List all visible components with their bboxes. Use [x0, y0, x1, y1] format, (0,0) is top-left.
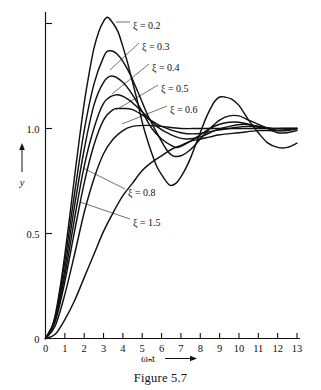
response-curve [46, 129, 298, 339]
leader-line [80, 202, 130, 219]
curve-label: ξ = 0.3 [142, 41, 170, 53]
curve-label: ξ = 0.8 [128, 187, 156, 199]
x-tick-label: 9 [217, 343, 222, 354]
figure-container: 012345678910111213 00.51.0 ξ = 0.2ξ = 0.… [0, 0, 321, 390]
curve-label: ξ = 0.5 [161, 83, 189, 95]
figure-caption: Figure 5.7 [0, 371, 321, 386]
curve-label: ξ = 0.6 [170, 104, 198, 116]
x-axis-title-group: ωₙt [141, 353, 197, 364]
x-tick-label: 4 [120, 343, 126, 354]
y-tick-label: 0.5 [26, 229, 39, 240]
x-tick-label: 5 [140, 343, 145, 354]
x-tick-label: 8 [198, 343, 203, 354]
x-tick-label: 3 [101, 343, 106, 354]
x-tick-label: 10 [234, 343, 245, 354]
curve-label: ξ = 1.5 [133, 217, 161, 229]
y-tick-label: 0 [34, 334, 39, 345]
y-tick-label: 1.0 [26, 124, 39, 135]
y-axis-title-group: y [19, 143, 25, 188]
x-axis-ticks: 012345678910111213 [43, 333, 302, 354]
x-tick-label: 1 [62, 343, 67, 354]
leader-line [83, 168, 125, 189]
y-axis-arrow-head [19, 143, 25, 150]
curve-annotations: ξ = 0.2ξ = 0.3ξ = 0.4ξ = 0.5ξ = 0.6ξ = 0… [128, 20, 198, 229]
x-axis-label: ωₙt [141, 353, 155, 364]
x-tick-label: 13 [292, 343, 303, 354]
leader-line [110, 43, 139, 70]
leader-line [112, 64, 149, 94]
curve-label: ξ = 0.4 [152, 62, 180, 74]
x-tick-label: 0 [43, 343, 48, 354]
x-axis-arrow-head [190, 356, 197, 362]
curve-label: ξ = 0.2 [133, 20, 161, 32]
x-tick-label: 12 [272, 343, 283, 354]
response-curve [46, 108, 298, 338]
y-axis-label: y [19, 177, 25, 188]
axes-group [46, 12, 301, 339]
x-tick-label: 7 [178, 343, 183, 354]
response-curve [46, 76, 298, 339]
chart-canvas: 012345678910111213 00.51.0 ξ = 0.2ξ = 0.… [0, 0, 321, 390]
y-axis-ticks: 00.51.0 [26, 24, 52, 345]
x-tick-label: 11 [253, 343, 263, 354]
x-tick-label: 2 [82, 343, 87, 354]
x-tick-label: 6 [159, 343, 164, 354]
